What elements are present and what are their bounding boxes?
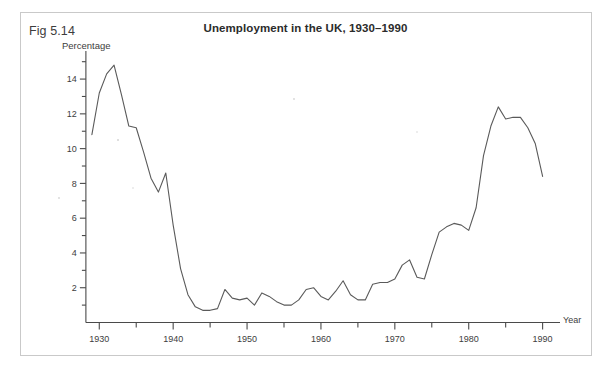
- x-axis: 1930194019501960197019801990: [86, 323, 560, 344]
- y-tick-label: 14: [67, 74, 77, 84]
- y-tick-label: 2: [72, 283, 77, 293]
- x-tick-label: 1950: [237, 334, 257, 344]
- x-tick-label: 1970: [385, 334, 405, 344]
- y-tick-label: 10: [67, 144, 77, 154]
- x-tick-label: 1960: [311, 334, 331, 344]
- data-series-group: [92, 65, 543, 310]
- unemployment-line: [92, 65, 543, 310]
- y-tick-label: 6: [72, 213, 77, 223]
- y-tick-label: 12: [67, 109, 77, 119]
- figure-root: Fig 5.14 Unemployment in the UK, 1930–19…: [0, 0, 611, 372]
- y-axis: 2468101214: [67, 51, 86, 323]
- line-chart-plot: 2468101214 1930194019501960197019801990: [0, 0, 611, 372]
- x-tick-label: 1980: [459, 334, 479, 344]
- y-tick-label: 8: [72, 179, 77, 189]
- x-tick-label: 1930: [89, 334, 109, 344]
- x-tick-label: 1940: [163, 334, 183, 344]
- x-tick-label: 1990: [533, 334, 553, 344]
- y-tick-label: 4: [72, 248, 77, 258]
- scan-artifacts: [58, 98, 418, 199]
